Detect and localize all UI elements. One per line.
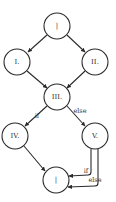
edge-entry-to-II bbox=[67, 35, 85, 52]
node-label: | bbox=[56, 22, 58, 30]
edge-IV-to-exit bbox=[24, 146, 45, 171]
node-exit: | bbox=[43, 167, 69, 193]
node-II: II. bbox=[82, 49, 108, 75]
edge-label-if: if bbox=[35, 112, 40, 120]
edge-label-else: else bbox=[88, 176, 101, 184]
node-label: IV. bbox=[11, 132, 20, 140]
node-label: V. bbox=[91, 132, 98, 140]
node-V: V. bbox=[82, 123, 108, 149]
node-IV: IV. bbox=[2, 123, 28, 149]
node-entry: | bbox=[44, 13, 70, 39]
node-label: II. bbox=[91, 58, 99, 66]
edge-II-to-III bbox=[67, 71, 85, 88]
node-label: | bbox=[55, 176, 57, 184]
edge-entry-to-I bbox=[28, 35, 47, 52]
edge-I-to-III bbox=[27, 71, 47, 88]
node-III: III. bbox=[44, 84, 70, 110]
edge-label-else: else bbox=[73, 107, 86, 115]
node-label: I. bbox=[15, 58, 20, 66]
control-flow-diagram: if else if else | I. II. III. IV. V. | bbox=[0, 0, 116, 202]
edge-label-if: if bbox=[84, 167, 89, 175]
node-I: I. bbox=[4, 49, 30, 75]
node-label: III. bbox=[52, 93, 63, 101]
